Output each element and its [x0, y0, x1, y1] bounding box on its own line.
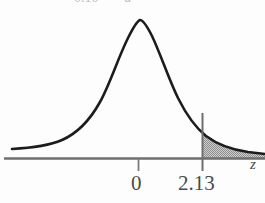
- axis-variable-label: z: [250, 157, 256, 172]
- tick-label-zero: 0: [131, 173, 142, 194]
- tick-label-critical-value: 2.13: [178, 173, 215, 194]
- normal-curve-path: [12, 20, 265, 154]
- normal-curve-figure: 0.10a 0 2.13 z: [0, 0, 265, 203]
